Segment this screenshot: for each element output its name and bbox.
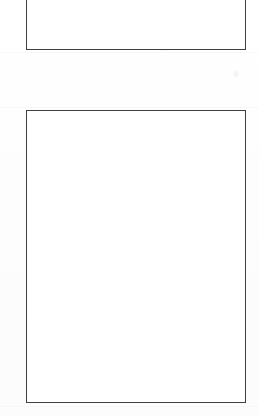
scan-band-artifact xyxy=(0,107,259,108)
scan-band-artifact xyxy=(0,52,259,53)
lower-blank-box xyxy=(26,110,246,403)
scan-band-artifact xyxy=(0,406,259,407)
scan-smudge-artifact xyxy=(232,69,240,79)
upper-blank-box xyxy=(26,0,246,50)
scanned-page xyxy=(0,0,259,416)
